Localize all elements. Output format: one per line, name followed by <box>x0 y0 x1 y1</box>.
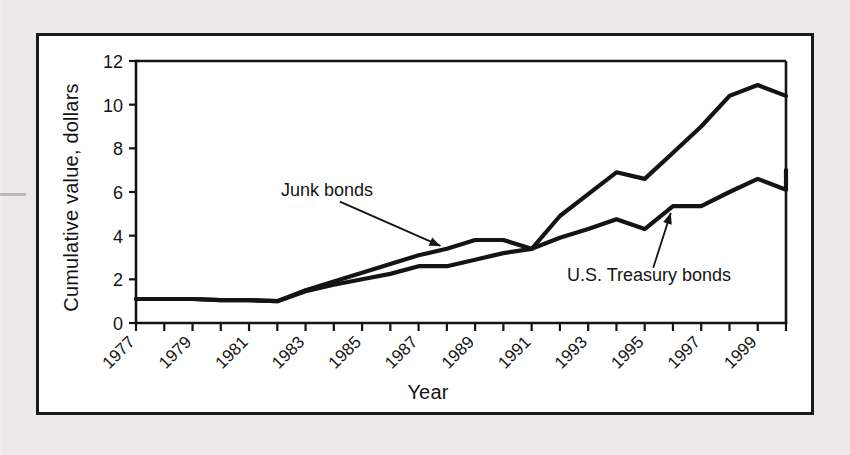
svg-text:1989: 1989 <box>438 332 478 372</box>
annotation-arrow-head <box>429 237 441 246</box>
svg-text:1987: 1987 <box>381 332 421 372</box>
svg-text:12: 12 <box>103 52 123 72</box>
svg-text:1999: 1999 <box>720 332 760 372</box>
svg-text:2: 2 <box>113 270 123 290</box>
y-axis-ticks: 024681012 <box>103 52 136 334</box>
annotation-label: Junk bonds <box>281 180 373 200</box>
svg-text:8: 8 <box>113 139 123 159</box>
svg-text:6: 6 <box>113 183 123 203</box>
x-axis-ticks: 1977197919811983198519871989199119931995… <box>99 323 786 373</box>
line-chart: 024681012 197719791981198319851987198919… <box>39 36 817 418</box>
svg-text:1997: 1997 <box>664 332 704 372</box>
svg-text:4: 4 <box>113 227 123 247</box>
page-edge-mark <box>0 193 26 196</box>
svg-text:1985: 1985 <box>325 332 365 372</box>
svg-text:10: 10 <box>103 96 123 116</box>
chart-annotations: Junk bondsU.S. Treasury bonds <box>281 180 731 285</box>
svg-text:1995: 1995 <box>607 332 647 372</box>
svg-text:1993: 1993 <box>551 332 591 372</box>
annotation-label: U.S. Treasury bonds <box>567 265 731 285</box>
svg-text:1977: 1977 <box>99 332 139 372</box>
svg-text:1991: 1991 <box>494 332 534 372</box>
svg-text:1981: 1981 <box>212 332 252 372</box>
svg-text:1979: 1979 <box>155 332 195 372</box>
svg-text:0: 0 <box>113 314 123 334</box>
annotation-arrow-shaft <box>340 202 441 246</box>
svg-text:1983: 1983 <box>268 332 308 372</box>
figure-panel: Cumulative value, dollars Year 024681012… <box>36 33 814 415</box>
